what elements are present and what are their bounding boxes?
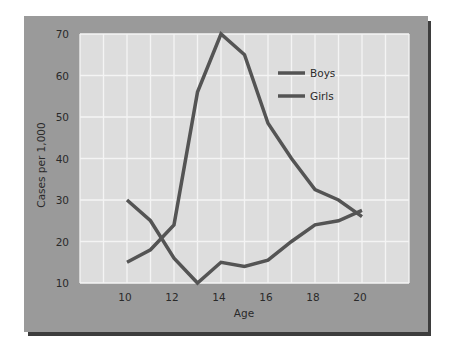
y-tick-label: 50 [56,111,69,123]
y-tick-label: 40 [56,153,69,165]
x-axis-ticks: 101214161820 [118,291,366,303]
line-chart: 10203040506070 101214161820 Cases per 1,… [0,0,451,354]
y-tick-label: 10 [56,277,69,289]
y-tick-label: 70 [56,28,69,40]
legend-label-boys: Boys [310,67,335,79]
y-tick-label: 60 [56,70,69,82]
x-tick-label: 16 [259,291,273,303]
x-tick-label: 18 [306,291,319,303]
x-tick-label: 20 [353,291,366,303]
y-axis-ticks: 10203040506070 [56,28,69,289]
x-tick-label: 12 [165,291,178,303]
y-tick-label: 20 [56,236,69,248]
legend-label-girls: Girls [310,90,334,102]
x-tick-label: 10 [118,291,131,303]
x-axis-title: Age [234,307,254,319]
y-axis-title: Cases per 1,000 [35,122,47,207]
y-tick-label: 30 [56,194,69,206]
x-tick-label: 14 [212,291,226,303]
